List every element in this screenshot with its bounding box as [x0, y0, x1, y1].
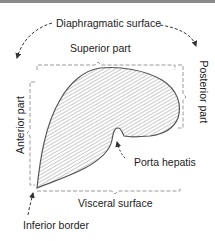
posterior-bracket: [178, 65, 186, 128]
visceral-surface-label: Visceral surface: [78, 197, 153, 209]
diaphragmatic-arrow-right: [160, 25, 196, 46]
posterior-part-label: Posterior part: [198, 60, 210, 123]
porta-hepatis-arrow: [117, 142, 125, 158]
liver-shape: [37, 68, 179, 189]
inferior-border-arrow: [28, 193, 33, 215]
anterior-bracket: [27, 82, 35, 185]
liver-diagram: Diaphragmatic surface Superior part Ante…: [0, 0, 215, 241]
porta-hepatis-label: Porta hepatis: [134, 156, 196, 168]
diaphragmatic-surface-label: Diaphragmatic surface: [56, 17, 161, 29]
superior-part-label: Superior part: [70, 42, 131, 54]
inferior-border-label: Inferior border: [23, 219, 89, 231]
diaphragmatic-arrow-left: [17, 23, 52, 58]
anterior-part-label: Anterior part: [14, 96, 26, 154]
visceral-bracket: [37, 188, 180, 194]
